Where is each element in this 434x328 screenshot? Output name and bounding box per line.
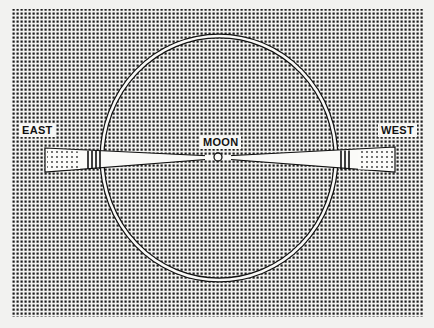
west-label: WEST: [378, 124, 417, 137]
west-band-shading: [358, 149, 393, 170]
east-band-shading: [47, 150, 80, 170]
moon-label: MOON: [200, 136, 241, 149]
moon-tidal-diagram: [0, 0, 434, 328]
east-label: EAST: [19, 124, 56, 137]
moon-icon: [214, 153, 222, 161]
